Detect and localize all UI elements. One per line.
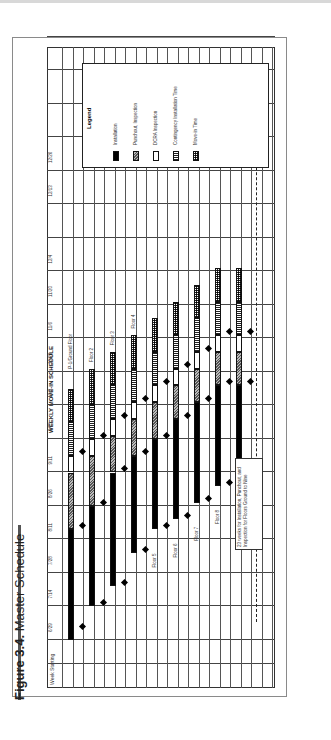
bar-cont (173, 335, 179, 369)
bar-punch (236, 352, 242, 386)
bar-move (152, 318, 158, 352)
legend-swatch-inst (113, 151, 119, 161)
bar-dcra (152, 385, 158, 402)
bar-inst (89, 506, 95, 607)
bar-move (194, 285, 200, 319)
bar-punch (215, 352, 221, 386)
bar-move (173, 302, 179, 336)
span-annotation: 23 weeks for Installation, Punchout, and… (235, 458, 263, 550)
page-top-rule (0, 0, 331, 3)
legend-label-contingency: Contingency Installation Time (173, 86, 178, 145)
week-label: 10/9 (48, 389, 53, 398)
week-label: 12/4 (48, 255, 53, 264)
bar-dcra (89, 439, 95, 456)
bar-dcra (194, 352, 200, 369)
bar-punch (152, 402, 158, 439)
bar-dcra (131, 402, 137, 419)
bar-inst (110, 473, 116, 587)
week-label: 11/20 (48, 286, 53, 297)
floor-label: Floor 5 (152, 553, 157, 567)
bar-punch (89, 456, 95, 506)
bar-cont (68, 422, 74, 456)
week-label: 7/14 (48, 590, 53, 599)
bar-cont (215, 302, 221, 336)
bar-punch (173, 385, 179, 419)
legend-label-installation: Installation (113, 123, 118, 145)
legend-label-dcra: DCRA Inspection (153, 111, 158, 145)
bar-cont (131, 369, 137, 403)
bar-punch (194, 369, 200, 403)
week-label: 12/13 (48, 185, 53, 196)
legend-swatch-dcra (153, 151, 159, 161)
bar-inst (194, 402, 200, 503)
bar-punch (110, 436, 116, 473)
floor-label: Floor 4 (131, 314, 136, 328)
bar-dcra (110, 419, 116, 436)
week-label: 10/23 (48, 353, 53, 364)
week-label: 12/26 (48, 152, 53, 163)
figure-title: Figure 3.4. Master Schedule (12, 534, 27, 700)
legend-label-move-in: Move-in Time (193, 118, 198, 145)
floor-label: Floor 8 (215, 510, 220, 524)
bar-move (110, 352, 116, 386)
bar-move (89, 369, 95, 406)
legend-swatch-cont (173, 151, 179, 161)
week-starting-label: Week Starting (49, 654, 55, 685)
floor-label: Floor 6 (173, 543, 178, 557)
bar-cont (194, 318, 200, 352)
bar-cont (152, 352, 158, 386)
bar-move (215, 268, 221, 302)
legend-title: Legend (86, 108, 92, 129)
legend-label-punchout: Punchout, Inspection (133, 103, 138, 145)
week-label: 8/26 (48, 489, 53, 498)
bar-cont (236, 302, 242, 336)
week-label: 9/11 (48, 456, 53, 464)
bar-dcra (236, 335, 242, 352)
legend-swatch-move (193, 151, 199, 161)
bar-dcra (68, 456, 74, 473)
week-label: 6/29 (48, 623, 53, 632)
lane-gridline (62, 47, 63, 688)
week-label: 7/28 (48, 556, 53, 565)
floor-label: Floor 2 (89, 348, 94, 362)
week-label: 9/25 (48, 422, 53, 431)
bar-dcra (215, 335, 221, 352)
bar-inst (68, 529, 74, 640)
master-schedule-chart: Week Starting WEEKLY MOVE-IN SCHEDULE 6/… (47, 47, 275, 688)
bar-inst (215, 385, 221, 486)
lane-gridline (272, 47, 273, 688)
legend-swatch-punch (133, 151, 139, 161)
bar-inst (131, 456, 137, 553)
legend: Legend Installation Punchout, Inspection… (82, 63, 269, 168)
bar-move (236, 268, 242, 302)
bar-inst (152, 439, 158, 529)
bar-cont (89, 406, 95, 440)
week-label: 11/6 (48, 322, 53, 330)
bar-move (131, 335, 137, 369)
bar-inst (173, 419, 179, 520)
floor-label: Floor 7 (194, 527, 199, 541)
floor-label: Floor 3 (110, 331, 115, 345)
floor-label: P-1/Ground Floor (68, 334, 73, 369)
bar-dcra (173, 369, 179, 386)
figure-label: Figure 3.4. (12, 635, 27, 700)
bar-move (68, 389, 74, 423)
bar-cont (110, 385, 116, 419)
week-label: 8/11 (48, 523, 53, 531)
bar-punch (68, 473, 74, 530)
figure-title-text: Master Schedule (12, 534, 27, 632)
bar-punch (131, 419, 137, 456)
week-gridline (47, 36, 275, 37)
